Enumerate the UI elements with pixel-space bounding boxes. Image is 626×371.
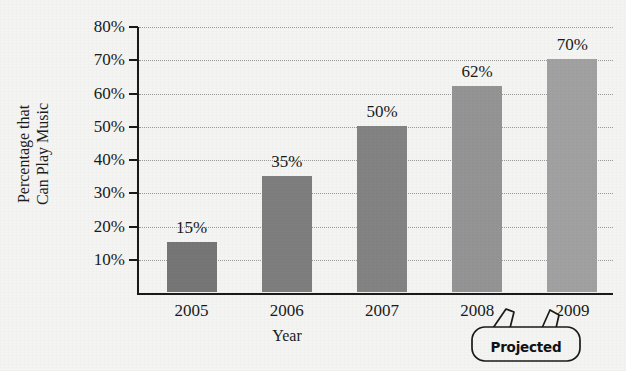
bar-value-label: 15% (176, 218, 207, 238)
callout-body (472, 327, 580, 361)
gridline (139, 94, 613, 95)
y-axis-tick-label: 30% (94, 183, 125, 203)
x-axis-line (137, 293, 613, 295)
projected-callout: Projected (446, 306, 606, 368)
x-axis-tick-label: 2007 (365, 301, 399, 321)
y-axis-tick-label: 10% (94, 249, 125, 269)
gridline (139, 60, 613, 61)
y-axis-line (137, 27, 139, 295)
bar-value-label: 50% (366, 102, 397, 122)
y-axis-tick (129, 26, 138, 28)
callout-tail-right-icon (542, 310, 559, 328)
y-axis-tick (129, 126, 138, 128)
y-axis-tick-label: 40% (94, 150, 125, 170)
y-axis-tick (129, 192, 138, 194)
bar-value-label: 35% (271, 152, 302, 172)
y-axis-tick-label: 70% (94, 50, 125, 70)
chart-title (0, 0, 626, 1)
y-axis-tick-label: 20% (94, 216, 125, 236)
y-axis-tick-label: 50% (94, 116, 125, 136)
y-axis-tick-label: 80% (94, 17, 125, 37)
x-axis-title: Year (137, 327, 437, 345)
bar-2007: 50% (357, 126, 407, 292)
bar-value-label: 70% (557, 35, 588, 55)
y-axis-title-line-2: Can Play Music (33, 49, 52, 259)
y-axis-tick (129, 226, 138, 228)
callout-tail-left-icon (493, 309, 514, 328)
y-axis-tick (129, 159, 138, 161)
bar-2009: 70% (547, 59, 597, 292)
y-axis-tick-label: 60% (94, 83, 125, 103)
y-axis-title: Percentage that Can Play Music (14, 49, 52, 259)
y-axis-title-line-1: Percentage that (14, 49, 33, 259)
bar-chart: Percentage that Can Play Music 10%20%30%… (0, 0, 626, 371)
gridline (139, 27, 613, 28)
projected-callout-shape (446, 306, 606, 368)
bar-value-label: 62% (462, 62, 493, 82)
y-axis-tick (129, 59, 138, 61)
y-axis-tick (129, 93, 138, 95)
y-axis-tick (129, 259, 138, 261)
bar-2008: 62% (452, 86, 502, 292)
bar-2005: 15% (167, 242, 217, 292)
bar-2006: 35% (262, 176, 312, 292)
x-axis-tick-label: 2005 (175, 301, 209, 321)
x-axis-tick-label: 2006 (270, 301, 304, 321)
plot-area: 10%20%30%40%50%60%70%80% 15%35%50%62%70%… (137, 27, 613, 294)
